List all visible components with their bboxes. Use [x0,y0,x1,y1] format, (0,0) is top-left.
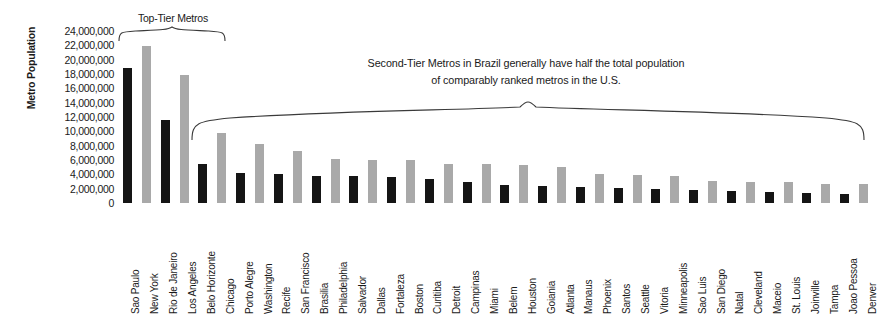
x-axis-tick: San Francisco [301,253,311,314]
x-axis-tick: Boston [415,284,425,314]
bar [859,184,868,203]
x-axis-tick: Phoenix [603,279,613,314]
y-axis-tick: 10,000,000 [64,126,114,136]
bar [142,46,151,203]
bar [406,160,415,203]
bar [123,68,132,203]
y-axis-tick: 16,000,000 [64,83,114,93]
bar [198,164,207,203]
bar [255,144,264,203]
y-axis-tick: 2,000,000 [70,184,114,194]
y-axis-tick: 24,000,000 [64,26,114,36]
bar [425,179,434,203]
bar [538,186,547,203]
x-axis-tick: Denver [868,283,878,314]
x-axis-tick: Salvador [358,276,368,314]
bar [463,182,472,204]
x-axis-baseline [118,202,873,203]
y-axis-tick: 12,000,000 [64,112,114,122]
x-axis-tick: Sao Paulo [131,270,141,314]
x-axis-tick: Manaus [584,280,594,314]
bar [708,181,717,203]
bar [633,175,642,203]
x-axis-tick: Recife [282,287,292,314]
bar [784,182,793,203]
top-tier-brace-svg [118,26,226,42]
x-axis-tick: Belo Horizonte [207,251,217,314]
bar [161,120,170,203]
x-axis-tick: Maceio [773,283,783,314]
bar [331,159,340,203]
bar [595,174,604,203]
x-axis-tick: Joao Pessoa [849,258,859,314]
bar [727,191,736,203]
x-axis-tick: Vitoria [660,287,670,314]
x-axis-tick: Campinas [471,271,481,314]
y-axis-title: Metro Population [25,0,37,143]
bar [519,165,528,203]
bar [840,194,849,203]
bar [444,164,453,203]
top-tier-brace-icon [118,26,226,42]
bar-chart: Metro Population 24,000,00022,000,00020,… [0,0,883,320]
x-axis-tick: Dallas [377,287,387,314]
bar [274,174,283,203]
x-axis-tick: Cleveland [754,271,764,314]
y-axis-tick: 6,000,000 [70,155,114,165]
x-axis-tick: Rio de Janeiro [169,252,179,314]
bar [217,133,226,203]
bar [821,184,830,203]
second-tier-annotation-line2: of comparably ranked metros in the U.S. [196,72,856,89]
second-tier-brace-svg [190,101,866,141]
x-axis-tick: New York [150,273,160,314]
x-axis-tick: Curitiba [433,281,443,314]
y-axis-tick: 20,000,000 [64,55,114,65]
x-axis-tick: Fortaleza [396,274,406,314]
bar [482,164,491,203]
y-axis-tick-labels: 24,000,00022,000,00020,000,00018,000,000… [40,0,114,320]
bar [689,190,698,203]
second-tier-annotation-label: Second-Tier Metros in Brazil generally h… [196,55,856,89]
x-axis-tick: Chicago [226,279,236,314]
x-axis-tick: Miami [490,288,500,314]
bar [180,75,189,203]
bar [746,182,755,204]
y-axis-tick: 22,000,000 [64,40,114,50]
x-axis-tick: Porto Alegre [245,261,255,314]
x-axis-tick: Goiania [547,281,557,314]
x-axis-tick: Sao Luis [698,277,708,314]
y-axis-tick: 4,000,000 [70,169,114,179]
second-tier-annotation-line1: Second-Tier Metros in Brazil generally h… [196,55,856,72]
x-axis-tick: Los Angeles [188,262,198,314]
bar [312,176,321,203]
x-axis-tick: St. Louis [792,277,802,314]
y-axis-tick: 14,000,000 [64,98,114,108]
x-axis-tick: Brasilia [320,283,330,314]
x-axis-tick: Santos [622,284,632,314]
bar [576,187,585,203]
x-axis-tick: Minneapolis [679,263,689,314]
x-axis-tick: Belem [509,287,519,314]
bar [236,173,245,203]
bar [670,176,679,203]
bar [802,193,811,203]
x-axis-tick: San Diego [717,269,727,314]
bar [765,192,774,203]
y-axis-tick: 0 [108,198,114,208]
x-axis-tick-labels: Sao PauloNew YorkRio de JaneiroLos Angel… [118,206,873,318]
bar [651,189,660,203]
x-axis-tick: Tampa [830,285,840,314]
bar [614,188,623,203]
x-axis-tick: Seattle [641,284,651,314]
x-axis-tick: Natal [735,292,745,314]
x-axis-tick: Philadelphia [339,262,349,314]
x-axis-tick: Washington [264,264,274,314]
second-tier-brace-icon [190,101,866,141]
x-axis-tick: Joinville [811,280,821,314]
bar [349,176,358,203]
top-tier-annotation-label: Top-Tier Metros [118,12,228,24]
bar [387,177,396,203]
y-axis-tick: 18,000,000 [64,69,114,79]
x-axis-tick: Houston [528,278,538,314]
x-axis-tick: Atlanta [566,284,576,314]
